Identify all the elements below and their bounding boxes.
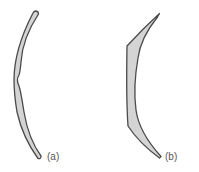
- crescent-shape-b: [127, 14, 161, 159]
- label-b: (b): [165, 151, 177, 162]
- panel-b: (b): [127, 14, 178, 163]
- label-a: (a): [47, 151, 59, 162]
- crescent-shape-a: [14, 11, 41, 159]
- diagram-figure: (a) (b): [0, 0, 199, 172]
- panel-a: (a): [14, 11, 59, 162]
